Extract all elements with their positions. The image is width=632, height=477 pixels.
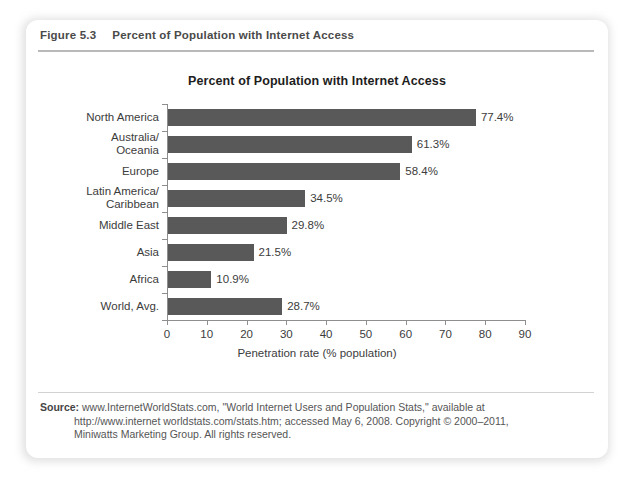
x-axis-tick-label: 20 <box>227 328 267 340</box>
bar-row: Australia/Oceania61.3% <box>167 131 525 158</box>
x-axis-tick <box>286 320 287 325</box>
figure-header: Figure 5.3 Percent of Population with In… <box>26 20 608 50</box>
x-axis-tick-label: 0 <box>147 328 187 340</box>
source-text-1: www.InternetWorldStats.com, "World Inter… <box>82 401 485 413</box>
x-axis-tick-label: 90 <box>505 328 545 340</box>
x-axis-tick-label: 10 <box>187 328 227 340</box>
figure-caption: Percent of Population with Internet Acce… <box>112 29 354 41</box>
x-axis-tick-label: 40 <box>306 328 346 340</box>
category-label: World, Avg. <box>44 300 159 313</box>
category-label: Latin America/Caribbean <box>44 185 159 211</box>
bar-value-label: 61.3% <box>417 136 450 153</box>
category-label: Australia/Oceania <box>44 131 159 157</box>
chart-area: Percent of Population with Internet Acce… <box>26 54 608 390</box>
category-label: Asia <box>44 246 159 259</box>
x-axis-tick-label: 70 <box>425 328 465 340</box>
x-axis-tick <box>326 320 327 325</box>
source-line-1: Source: www.InternetWorldStats.com, "Wor… <box>40 401 596 415</box>
figure-number: Figure 5.3 <box>40 29 96 41</box>
bar <box>168 109 476 126</box>
x-axis-tick <box>525 320 526 325</box>
x-axis-tick <box>247 320 248 325</box>
x-axis-tick <box>167 320 168 325</box>
x-axis-tick-label: 30 <box>266 328 306 340</box>
chart-title: Percent of Population with Internet Acce… <box>26 74 608 88</box>
y-axis-tick <box>162 212 167 213</box>
bar-row: Middle East29.8% <box>167 212 525 239</box>
x-axis-line <box>167 320 525 321</box>
x-axis-tick <box>445 320 446 325</box>
y-axis-tick <box>162 158 167 159</box>
bar-value-label: 28.7% <box>287 298 320 315</box>
bar-value-label: 58.4% <box>405 163 438 180</box>
bar-value-label: 21.5% <box>259 244 292 261</box>
x-axis-tick <box>366 320 367 325</box>
y-axis-tick <box>162 293 167 294</box>
source-divider <box>38 392 594 393</box>
y-axis-tick <box>162 266 167 267</box>
bar <box>168 163 400 180</box>
category-label: Middle East <box>44 219 159 232</box>
header-divider <box>38 50 594 52</box>
bar-row: World, Avg.28.7% <box>167 293 525 320</box>
y-axis-tick <box>162 104 167 105</box>
bar-value-label: 34.5% <box>310 190 343 207</box>
bar <box>168 244 254 261</box>
x-axis-tick <box>406 320 407 325</box>
x-axis-tick <box>485 320 486 325</box>
category-label: Europe <box>44 165 159 178</box>
x-axis-tick-label: 50 <box>346 328 386 340</box>
source-note: Source: www.InternetWorldStats.com, "Wor… <box>40 401 596 442</box>
bar <box>168 298 282 315</box>
bar-row: Latin America/Caribbean34.5% <box>167 185 525 212</box>
bar-value-label: 10.9% <box>216 271 249 288</box>
source-label: Source: <box>40 401 79 413</box>
bar-row: Asia21.5% <box>167 239 525 266</box>
x-axis-tick-label: 60 <box>386 328 426 340</box>
x-axis-tick-label: 80 <box>465 328 505 340</box>
bar <box>168 136 412 153</box>
bar-value-label: 77.4% <box>481 109 514 126</box>
bar <box>168 190 305 207</box>
plot-area: North America77.4%Australia/Oceania61.3%… <box>167 104 525 320</box>
bar-row: North America77.4% <box>167 104 525 131</box>
y-axis-tick <box>162 185 167 186</box>
x-axis-title: Penetration rate (% population) <box>26 347 608 359</box>
source-line-3: Miniwatts Marketing Group. All rights re… <box>40 428 596 442</box>
bar-row: Europe58.4% <box>167 158 525 185</box>
x-axis-tick <box>207 320 208 325</box>
category-label: Africa <box>44 273 159 286</box>
bar-row: Africa10.9% <box>167 266 525 293</box>
bar <box>168 271 211 288</box>
category-label: North America <box>44 111 159 124</box>
y-axis-tick <box>162 239 167 240</box>
bar-value-label: 29.8% <box>292 217 325 234</box>
bar <box>168 217 287 234</box>
source-line-2: http://www.internet worldstats.com/stats… <box>40 415 596 429</box>
y-axis-tick <box>162 131 167 132</box>
figure-card: Figure 5.3 Percent of Population with In… <box>26 20 608 458</box>
